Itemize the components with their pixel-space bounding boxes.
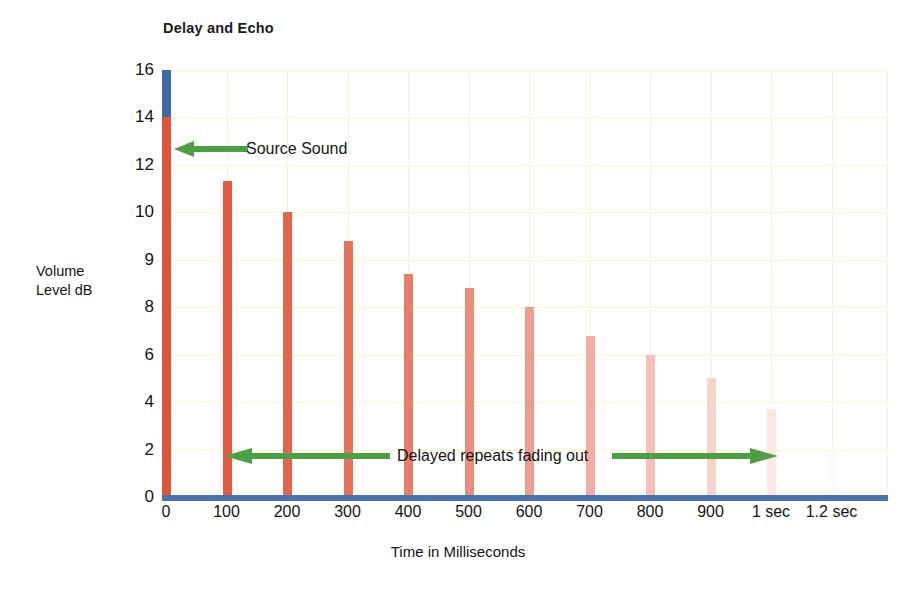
bar <box>465 288 474 497</box>
y-axis-tick-label: 4 <box>145 392 154 412</box>
x-axis-tick-label: 0 <box>162 503 171 521</box>
bar <box>162 117 171 497</box>
x-axis-tick-label: 500 <box>455 503 482 521</box>
y-axis-title: Volume Level dB <box>36 262 116 300</box>
bar <box>707 378 716 497</box>
x-axis-tick-label: 1 sec <box>752 503 790 521</box>
source-peak-cap <box>162 70 171 117</box>
x-axis-tick-label: 1.2 sec <box>806 503 858 521</box>
y-axis-tick-label: 12 <box>135 155 154 175</box>
bar <box>828 447 837 497</box>
y-axis-title-line-2: Level dB <box>36 281 116 300</box>
source-sound-arrow-icon <box>172 140 248 158</box>
y-axis-tick-label: 9 <box>145 250 154 270</box>
page-title: Delay and Echo <box>163 20 274 36</box>
x-axis-tick-label: 400 <box>395 503 422 521</box>
x-axis-tick-label: 900 <box>697 503 724 521</box>
x-axis-tick-label: 300 <box>334 503 361 521</box>
y-axis-tick-label: 6 <box>145 345 154 365</box>
x-axis-tick-label: 200 <box>274 503 301 521</box>
y-axis-title-line-1: Volume <box>36 262 116 281</box>
y-axis-tick-label: 14 <box>135 107 154 127</box>
y-axis-tick-label: 10 <box>135 202 154 222</box>
cropped-caption-remnant <box>22 589 342 602</box>
source-sound-annotation-label: Source Sound <box>246 140 347 158</box>
x-axis-tick-label: 700 <box>576 503 603 521</box>
y-axis-tick-labels: 16141210986420 <box>108 70 154 497</box>
x-axis-tick-label: 800 <box>637 503 664 521</box>
bar <box>586 336 595 497</box>
chart-figure: Delay and Echo Volume Level dB 161412109… <box>0 0 916 602</box>
x-axis-tick-label: 100 <box>213 503 240 521</box>
x-axis-baseline <box>162 495 888 501</box>
x-axis-tick-labels: 01002003004005006007008009001 sec1.2 sec <box>162 503 888 529</box>
bar <box>646 355 655 497</box>
y-axis-tick-label: 0 <box>145 487 154 507</box>
x-axis-title: Time in Milliseconds <box>0 543 916 560</box>
bar <box>525 307 534 497</box>
y-axis-tick-label: 8 <box>145 297 154 317</box>
y-axis-tick-label: 2 <box>145 440 154 460</box>
plot-area <box>162 70 888 497</box>
y-axis-tick-label: 16 <box>135 60 154 80</box>
bars-layer <box>162 70 888 497</box>
x-axis-tick-label: 600 <box>516 503 543 521</box>
delayed-repeats-annotation-label: Delayed repeats fading out <box>397 447 588 465</box>
